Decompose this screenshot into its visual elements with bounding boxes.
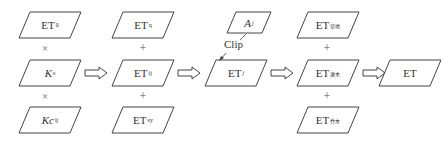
box-label: ET乔木 [296, 106, 360, 134]
box-et-tree: ET乔木 [296, 106, 360, 134]
box-label: ETj [204, 59, 268, 87]
clip-label: Clip [224, 38, 243, 50]
box-label: ET灌木 [296, 59, 360, 87]
plus-operator: + [320, 42, 334, 54]
box-et-total: ET [378, 59, 442, 87]
box-et-shrub: ET灌木 [296, 59, 360, 87]
box-etj: ETj [204, 59, 268, 87]
box-label: ET [378, 59, 442, 87]
plus-operator: + [320, 90, 334, 102]
arrow-right-icon [270, 66, 294, 80]
et-flow-diagram: ET0 × Ks × Kcij ETq + ETij + ETsy Aj C [0, 0, 442, 144]
box-et-grassland: ET草地 [296, 11, 360, 39]
box-label: ET草地 [296, 11, 360, 39]
